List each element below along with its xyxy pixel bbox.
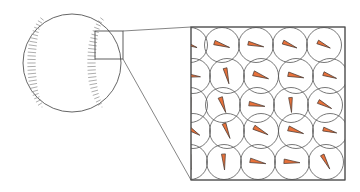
seam-stitch	[38, 103, 41, 105]
seam-stitch	[41, 18, 44, 20]
connector-bottom	[123, 59, 191, 180]
seam-stitch	[38, 21, 41, 23]
connector-lines	[123, 27, 191, 180]
seam-stitch	[36, 24, 40, 26]
seam-stitch	[101, 18, 104, 20]
figure-root	[0, 0, 360, 192]
connector-top	[123, 27, 191, 31]
diagram-canvas	[0, 0, 360, 192]
magnified-panel-group	[173, 27, 348, 180]
seam-stitch	[36, 100, 40, 102]
baseball-group	[23, 14, 121, 112]
